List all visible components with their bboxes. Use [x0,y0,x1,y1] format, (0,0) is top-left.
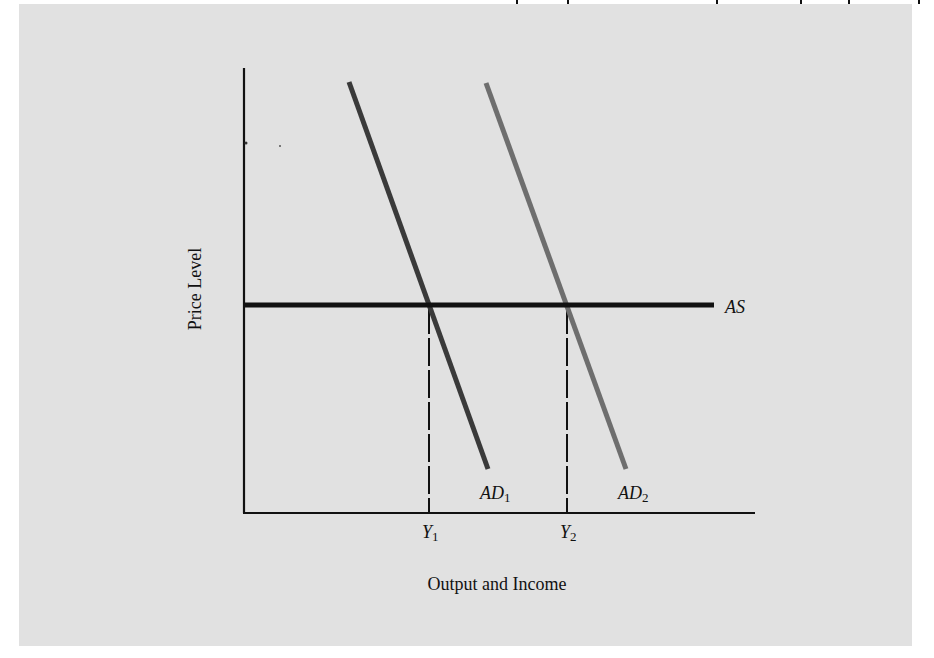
as-label: AS [724,297,745,317]
ad1-curve [349,82,488,469]
y1-tick-label: Y1 [422,522,439,544]
ad2-label: AD2 [617,483,649,505]
y2-tick-label: Y2 [560,522,577,544]
chart-svg: AS AD1 AD2 Y1 Y2 Output and Income Price… [0,0,934,658]
speck [279,145,281,147]
clipped-text-descenders [516,0,920,4]
y-axis-title: Price Level [185,248,205,330]
speck [245,142,248,145]
ad2-curve [486,83,626,469]
ad1-label: AD1 [479,483,511,505]
x-axis-title: Output and Income [428,574,567,594]
